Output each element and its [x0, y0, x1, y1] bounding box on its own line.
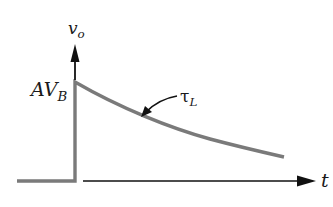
x-axis-label: t	[321, 171, 329, 190]
peak-value-label: AVB	[31, 80, 67, 99]
time-constant-pointer	[141, 96, 177, 117]
y-axis-arrow	[71, 44, 80, 80]
waveform-diagram	[0, 0, 333, 207]
x-axis-arrow	[83, 176, 316, 187]
y-axis-label: vo	[68, 20, 85, 37]
time-constant-label: τL	[180, 88, 197, 105]
